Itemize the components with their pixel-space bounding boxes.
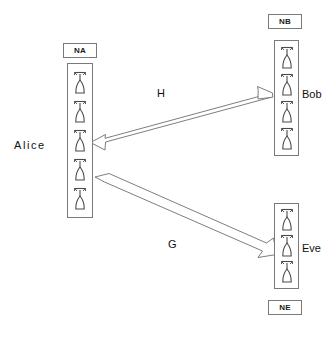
antenna-array-eve[interactable] (274, 203, 299, 289)
antenna-icon (72, 158, 88, 182)
edge-label-g: G (168, 238, 177, 250)
tag-label-ne: NE (279, 303, 291, 312)
node-label-alice: Alice (14, 139, 46, 151)
antenna-icon (279, 73, 295, 97)
antenna-icon (279, 234, 295, 258)
antenna-icon (72, 100, 88, 124)
tag-label-na: NA (74, 46, 86, 55)
tag-box-nb: NB (268, 14, 302, 29)
edge-h-arrow (91, 87, 273, 151)
antenna-icon (72, 187, 88, 211)
antenna-array-alice[interactable] (67, 63, 93, 218)
antenna-icon (279, 208, 295, 232)
edge-g-arrow (95, 174, 277, 258)
antenna-icon (72, 129, 88, 153)
antenna-icon (279, 46, 295, 70)
tag-box-na: NA (63, 43, 97, 58)
antenna-icon (72, 71, 88, 95)
tag-label-nb: NB (279, 17, 291, 26)
node-label-bob: Bob (302, 88, 322, 100)
antenna-array-bob[interactable] (274, 40, 299, 156)
edge-label-h: H (157, 87, 165, 99)
diagram-canvas: NA (0, 0, 336, 340)
antenna-icon (279, 100, 295, 124)
antenna-icon (279, 260, 295, 284)
antenna-icon (279, 127, 295, 151)
tag-box-ne: NE (268, 300, 302, 315)
node-label-eve: Eve (302, 242, 321, 254)
